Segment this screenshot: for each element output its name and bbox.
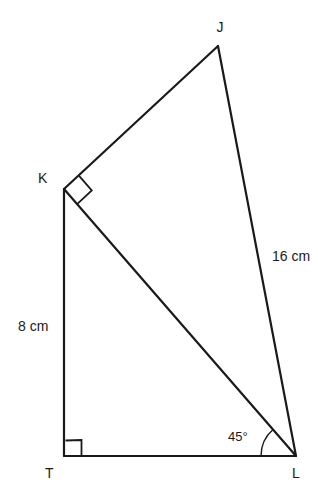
angle-arc-L-icon: [261, 430, 273, 456]
vertex-label-L: L: [292, 465, 300, 481]
vertex-label-T: T: [45, 465, 54, 481]
geometry-figure: J K T L 16 cm 8 cm 45°: [0, 0, 318, 500]
angle-label-L: 45°: [228, 429, 248, 444]
length-label-JL: 16 cm: [272, 248, 310, 264]
vertex-label-K: K: [38, 170, 48, 186]
vertex-label-J: J: [217, 19, 224, 35]
edge-JK: [64, 46, 218, 189]
right-angle-K-icon: [77, 175, 92, 204]
diagonal-KL: [64, 189, 296, 456]
right-angle-T-icon: [66, 440, 82, 456]
geometry-canvas: J K T L 16 cm 8 cm 45°: [0, 0, 318, 500]
length-label-KT: 8 cm: [18, 318, 48, 334]
